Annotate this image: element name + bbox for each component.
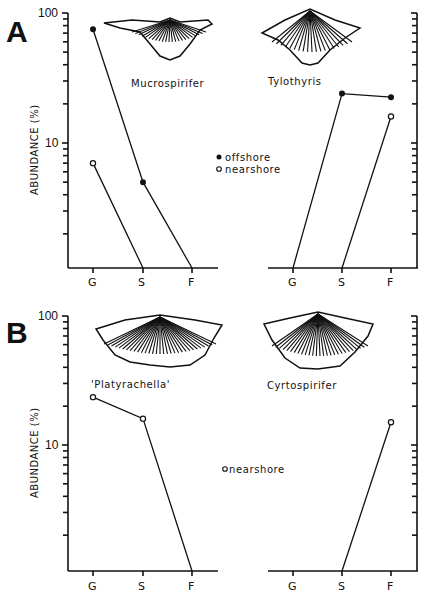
data-point-nearshore bbox=[388, 420, 393, 425]
nearshore-marker-icon bbox=[217, 167, 222, 172]
data-point-nearshore bbox=[140, 416, 145, 421]
x-label-f: F bbox=[387, 580, 393, 593]
offshore-marker-icon bbox=[217, 155, 222, 160]
data-point-nearshore bbox=[90, 161, 95, 166]
panel-letter-a: A bbox=[6, 15, 28, 48]
legend-nearshore: nearshore bbox=[225, 164, 281, 175]
series-line-nearshore bbox=[342, 422, 391, 571]
x-label-s: S bbox=[338, 580, 345, 593]
series-line-offshore bbox=[293, 94, 391, 268]
panel-a: A 100 10 ABUNDANCE (%) G S F G S F Mucro… bbox=[6, 6, 418, 289]
legend-nearshore: nearshore bbox=[229, 464, 285, 475]
panel-b: B 100 10 ABUNDANCE (%) G S F G S F 'Plat… bbox=[6, 309, 418, 593]
figure: A 100 10 ABUNDANCE (%) G S F G S F Mucro… bbox=[0, 0, 431, 598]
x-label-f: F bbox=[188, 580, 194, 593]
panel-b-data-series bbox=[90, 395, 393, 571]
panel-a-data-series bbox=[90, 26, 394, 268]
x-label-g: G bbox=[88, 276, 97, 289]
series-line-nearshore bbox=[93, 163, 143, 268]
y-axis-title: ABUNDANCE (%) bbox=[29, 407, 40, 498]
species-label-cyrtospirifer: Cyrtospirifer bbox=[267, 380, 337, 391]
x-label-f: F bbox=[387, 276, 393, 289]
panel-a-y-axis-right bbox=[411, 13, 417, 268]
data-point-offshore bbox=[140, 179, 146, 185]
legend-offshore: offshore bbox=[225, 152, 271, 163]
panel-letter-b: B bbox=[6, 316, 28, 349]
species-label-mucrospirifer: Mucrospirifer bbox=[131, 78, 205, 89]
cyrtospirifer-shell-illustration bbox=[264, 312, 373, 369]
y-tick-100: 100 bbox=[38, 6, 58, 20]
x-label-g: G bbox=[288, 580, 297, 593]
data-point-offshore bbox=[339, 91, 345, 97]
x-label-g: G bbox=[88, 580, 97, 593]
species-label-tylothyris: Tylothyris bbox=[267, 76, 322, 87]
series-line-nearshore bbox=[342, 116, 391, 268]
x-label-s: S bbox=[138, 580, 145, 593]
series-line-nearshore bbox=[93, 397, 192, 571]
x-label-g: G bbox=[288, 276, 297, 289]
data-point-nearshore bbox=[388, 114, 393, 119]
mucrospirifer-shell-illustration bbox=[104, 18, 212, 60]
tylothyris-shell-illustration bbox=[262, 9, 360, 65]
data-point-offshore bbox=[388, 94, 394, 100]
x-label-s: S bbox=[138, 276, 145, 289]
nearshore-marker-icon bbox=[223, 467, 228, 472]
panel-b-y-axis-right bbox=[411, 316, 417, 571]
x-label-s: S bbox=[338, 276, 345, 289]
y-axis-title: ABUNDANCE (%) bbox=[29, 104, 40, 195]
legend: nearshore bbox=[223, 464, 285, 475]
species-label-platyrachella: 'Platyrachella' bbox=[91, 379, 170, 390]
x-label-f: F bbox=[188, 276, 194, 289]
series-line-offshore bbox=[93, 29, 192, 268]
y-tick-10: 10 bbox=[45, 438, 59, 452]
data-point-nearshore bbox=[90, 395, 95, 400]
y-tick-10: 10 bbox=[45, 136, 59, 150]
platyrachella-shell-illustration bbox=[96, 315, 222, 367]
panel-a-y-axis-left bbox=[62, 13, 68, 268]
data-point-offshore bbox=[90, 26, 96, 32]
y-tick-100: 100 bbox=[38, 309, 58, 323]
panel-b-y-axis-left bbox=[62, 316, 68, 571]
legend: offshore nearshore bbox=[217, 152, 281, 175]
